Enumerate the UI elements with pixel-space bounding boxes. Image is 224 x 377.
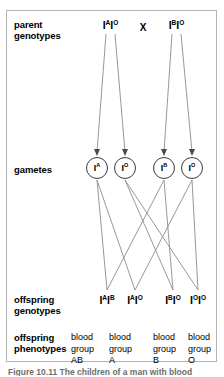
offspring-phenotype-2: blood group A	[109, 332, 132, 367]
phenotype-2-line2: group	[109, 344, 132, 356]
offspring-phenotype-3: blood group B	[153, 332, 176, 367]
row-label-parent-line2: genotypes	[14, 30, 61, 41]
offspring-genotype-1: IAIB	[99, 294, 114, 306]
gamete-2-label: IO	[122, 164, 129, 173]
offspring-1-sup-2: B	[110, 294, 115, 301]
gamete-4-label: IO	[189, 164, 196, 173]
phenotype-4-line2: group	[188, 344, 211, 356]
row-label-gametes-line1: gametes	[14, 164, 52, 175]
gamete-circle-3: IB	[153, 157, 175, 179]
row-label-offspring-pheno-line2: phenotypes	[14, 343, 66, 354]
phenotype-3-line2: group	[153, 344, 176, 356]
row-label-offspring-pheno-line1: offspring	[14, 332, 66, 343]
row-label-parent-line1: parent	[14, 19, 61, 30]
row-label-offspring-geno-line1: offspring	[14, 294, 61, 305]
offspring-genotype-4: IOIO	[190, 294, 206, 306]
gamete-2-sup: O	[124, 162, 128, 168]
parent-1-sup-2: O	[113, 19, 118, 26]
offspring-3-sup-2: O	[176, 294, 181, 301]
row-label-offspring-phenotypes: offspring phenotypes	[14, 332, 66, 354]
phenotype-3-line3: B	[153, 355, 176, 367]
parent-genotype-2: IBIO	[169, 19, 185, 31]
row-label-offspring-genotypes: offspring genotypes	[14, 294, 61, 316]
offspring-4-sup-2: O	[201, 294, 206, 301]
offspring-phenotype-4: blood group O	[188, 332, 211, 367]
phenotype-1-line1: blood	[71, 332, 94, 344]
phenotype-1-line3: AB	[71, 355, 94, 367]
gamete-1-label: IA	[94, 164, 101, 173]
genetics-inheritance-figure: parent genotypes gametes offspring genot…	[0, 0, 224, 377]
gamete-circle-4: IO	[181, 157, 203, 179]
gamete-circle-2: IO	[114, 157, 136, 179]
phenotype-1-line2: group	[71, 344, 94, 356]
parent-genotype-1: IAIO	[103, 19, 119, 31]
offspring-2-sup-2: O	[138, 294, 143, 301]
gamete-1-sup: A	[96, 162, 100, 168]
gamete-3-sup: B	[163, 162, 167, 168]
gamete-circle-1: IA	[86, 157, 108, 179]
cross-symbol: X	[140, 22, 147, 33]
row-label-parent-genotypes: parent genotypes	[14, 19, 61, 41]
row-label-offspring-geno-line2: genotypes	[14, 305, 61, 316]
phenotype-3-line1: blood	[153, 332, 176, 344]
gamete-3-label: IB	[161, 164, 168, 173]
figure-caption: Figure 10.11 The children of a man with …	[8, 367, 218, 376]
gamete-4-sup: O	[191, 162, 195, 168]
phenotype-4-line1: blood	[188, 332, 211, 344]
phenotype-2-line3: A	[109, 355, 132, 367]
row-label-gametes: gametes	[14, 164, 52, 175]
offspring-genotype-3: IBIO	[165, 294, 181, 306]
phenotype-4-line3: O	[188, 355, 211, 367]
phenotype-2-line1: blood	[109, 332, 132, 344]
parent-2-sup-2: O	[179, 19, 184, 26]
offspring-genotype-2: IAIO	[127, 294, 143, 306]
offspring-phenotype-1: blood group AB	[71, 332, 94, 367]
